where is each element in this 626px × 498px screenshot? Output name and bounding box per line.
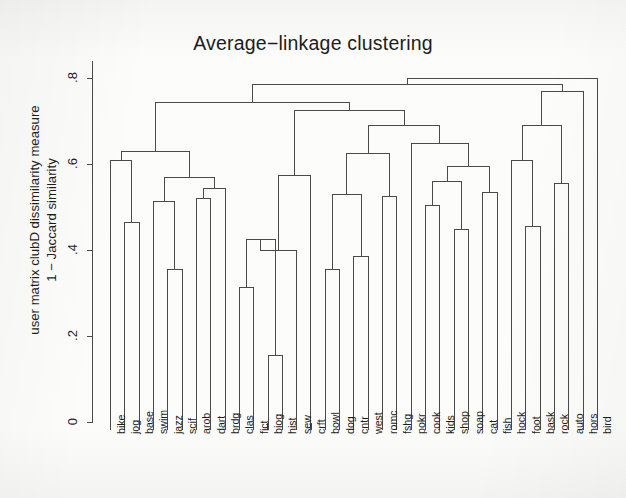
leaf-label-fish: fish: [501, 417, 513, 434]
dendrogram-link-m20: [454, 229, 468, 423]
dendrogram-link-m9: [239, 287, 253, 422]
dendrogram-link-m16: [332, 195, 361, 270]
leaf-label-soap: soap: [473, 411, 485, 434]
dendrogram-link-m22: [483, 192, 497, 422]
y-tick-label: .8: [64, 66, 79, 88]
dendrogram-link-m10: [268, 356, 282, 423]
dendrogram-link-m27: [511, 160, 532, 422]
leaf-label-auto: auto: [573, 413, 585, 434]
leaf-label-romc: romc: [387, 410, 399, 434]
y-tick-label: .6: [64, 152, 79, 174]
y-tick-label: 0: [64, 410, 79, 432]
leaf-label-kids: kids: [444, 415, 456, 434]
dendrogram-link-m7: [164, 177, 214, 201]
leaf-label-jog: jog: [129, 419, 141, 433]
dendrogram-link-m23: [447, 167, 490, 193]
leaf-label-shop: shop: [458, 411, 470, 434]
dendrogram-link-m13: [279, 175, 311, 422]
leaf-label-hock: hock: [515, 411, 527, 433]
dendrogram-link-m18: [347, 154, 390, 197]
dendrogram-link-m19: [426, 205, 440, 422]
dendrogram-link-m17: [383, 197, 397, 423]
leaf-label-swim: swim: [157, 409, 169, 433]
dendrogram-link-m3: [168, 270, 182, 423]
leaf-label-hors: hors: [587, 413, 599, 434]
leaf-label-arob: arob: [200, 412, 212, 433]
leaf-label-cntr: cntr: [358, 416, 370, 434]
dendrogram-link-m30: [295, 111, 404, 176]
leaf-label-base: base: [143, 411, 155, 434]
leaf-label-clas: clas: [243, 415, 255, 434]
leaf-label-crft: crft: [315, 419, 327, 434]
leaf-label-brdg: brdg: [229, 412, 241, 433]
dendrogram-link-m8: [121, 152, 189, 178]
dendrogram-link-m15: [354, 257, 368, 423]
dendrogram-link-m2: [111, 160, 132, 422]
leaf-label-scif: scif: [186, 418, 198, 434]
leaf-label-pokr: pokr: [415, 413, 427, 434]
dendrogram-link-m4: [153, 201, 174, 422]
dendrogram-link-m1: [125, 223, 139, 423]
leaf-label-hist: hist: [286, 417, 298, 434]
leaf-label-cat: cat: [487, 419, 499, 433]
dendrogram-link-m12: [261, 240, 297, 423]
y-tick-label: .4: [64, 238, 79, 260]
y-tick-label: .2: [64, 324, 79, 346]
leaf-label-dart: dart: [215, 415, 227, 433]
leaf-label-bask: bask: [544, 411, 556, 433]
leaf-label-dog: dog: [344, 416, 356, 434]
leaf-label-biog: biog: [272, 413, 284, 433]
leaf-label-sew: sew: [301, 415, 313, 434]
dendrogram-link-m6: [204, 188, 225, 422]
dendrogram-link-m26: [526, 227, 540, 423]
y-axis: [87, 61, 93, 422]
dendrogram-branches: [111, 79, 598, 423]
leaf-label-west: west: [372, 412, 384, 434]
leaf-label-bowl: bowl: [329, 412, 341, 434]
leaf-label-bike: bike: [115, 414, 127, 433]
leaf-label-rock: rock: [558, 413, 570, 433]
dendrogram-link-m11: [247, 240, 276, 356]
dendrogram-link-m32: [542, 91, 583, 422]
leaf-label-cook: cook: [430, 411, 442, 433]
leaf-label-foot: foot: [530, 416, 542, 434]
dendrogram-figure: Average−linkage clustering user matrix c…: [0, 0, 626, 498]
dendrogram-link-m25: [368, 126, 440, 154]
dendrogram-link-m5: [196, 199, 210, 423]
leaf-label-fict: fict: [258, 420, 270, 434]
dendrogram-link-m29: [522, 126, 561, 184]
dendrogram-link-m31: [155, 102, 349, 151]
leaf-label-bird: bird: [601, 416, 613, 434]
dendrogram-link-m28: [554, 184, 568, 423]
leaf-label-fshg: fshg: [401, 413, 413, 433]
dendrogram-link-m14: [325, 270, 339, 423]
dendrogram-link-m33: [252, 85, 562, 102]
leaf-label-jazz: jazz: [172, 415, 184, 434]
